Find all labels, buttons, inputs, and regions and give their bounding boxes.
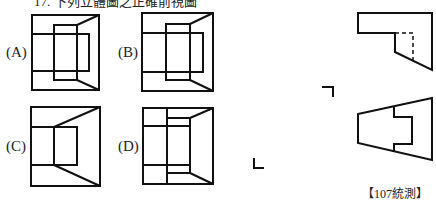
corner-mark-upper [322, 87, 333, 97]
front-view-drawing [358, 98, 432, 160]
corner-mark-lower [254, 158, 264, 168]
option-a-drawing[interactable] [32, 15, 99, 90]
option-d-drawing[interactable] [143, 108, 213, 184]
top-view-drawing [358, 13, 432, 70]
option-b-drawing[interactable] [142, 13, 213, 91]
option-c-drawing[interactable] [31, 107, 100, 186]
source-caption: 【107統測】 [362, 184, 428, 202]
drawing-canvas [0, 0, 436, 205]
